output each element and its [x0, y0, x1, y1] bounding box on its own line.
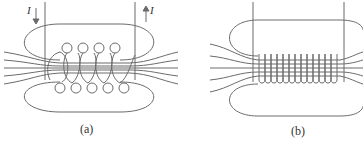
panel-a-diagram: [4, 2, 178, 112]
solenoid-diagram: [0, 0, 363, 147]
caption-b: (b): [291, 124, 305, 139]
caption-a: (a): [80, 122, 93, 137]
current-label-out: I: [150, 4, 154, 16]
panel-b-diagram: [210, 2, 363, 116]
current-label-in: I: [27, 4, 31, 16]
